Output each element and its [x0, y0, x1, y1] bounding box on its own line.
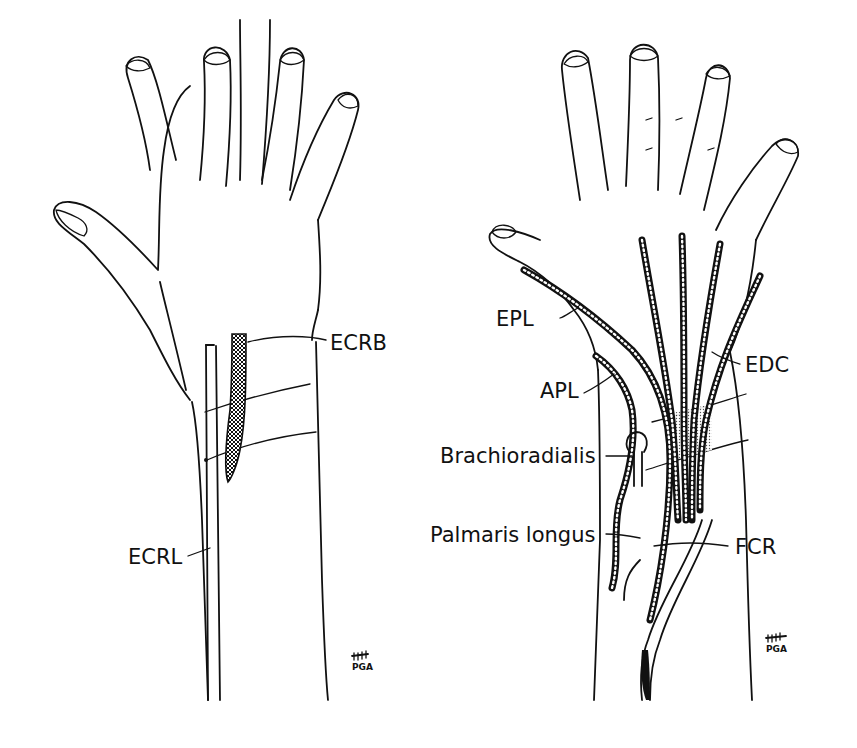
right-signature: PGA — [766, 633, 787, 654]
label-ecrb: ECRB — [330, 331, 387, 355]
left-hand-illustration — [54, 20, 359, 700]
anatomical-figure: ECRB ECRL PGA — [0, 0, 857, 748]
label-brachioradialis: Brachioradialis — [440, 444, 596, 468]
label-epl: EPL — [496, 307, 534, 331]
label-palmaris-longus: Palmaris longus — [430, 523, 595, 547]
signature-pga-right: PGA — [766, 644, 787, 654]
label-ecrl: ECRL — [128, 545, 183, 569]
signature-pga-left: PGA — [352, 662, 373, 672]
left-signature: PGA — [352, 651, 373, 672]
label-edc: EDC — [745, 353, 789, 377]
label-fcr: FCR — [735, 535, 776, 559]
label-apl: APL — [540, 379, 579, 403]
